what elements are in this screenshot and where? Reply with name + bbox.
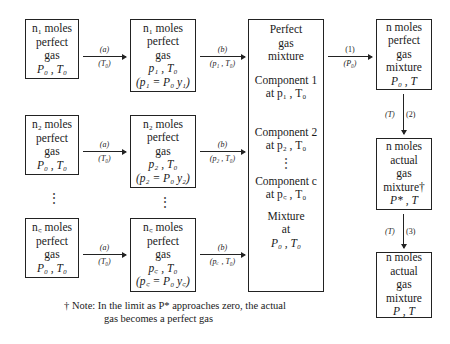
step-b-label-top: (b) bbox=[200, 140, 245, 149]
step-b-label-bottom: (p₂ , T₀) bbox=[200, 154, 245, 163]
label: at p꜀ , T₀ bbox=[266, 188, 306, 202]
label: n₁ moles bbox=[143, 22, 183, 36]
step-a-label-top: (a) bbox=[83, 45, 126, 54]
ellipsis-mixture: ⋮ bbox=[279, 153, 293, 175]
arrow-step-b-c bbox=[200, 254, 245, 255]
label: n moles bbox=[386, 140, 422, 154]
box-nc-initial: n꜀ moles perfect gas P₀ , T₀ bbox=[25, 218, 79, 278]
box-n1-initial: n₁ moles perfect gas P₀ , T₀ bbox=[25, 19, 79, 79]
label: Perfect bbox=[270, 23, 303, 37]
step-1-label-bottom: (P₀) bbox=[328, 59, 372, 68]
step-b-label-top: (b) bbox=[200, 45, 245, 54]
label: gas bbox=[44, 49, 59, 63]
box-actual-mixture-Pstar-T: n moles actual gas mixture† P* , T bbox=[376, 138, 432, 210]
label: at bbox=[282, 223, 290, 237]
label: P₀ , T₀ bbox=[37, 63, 67, 77]
step-b-label-bottom: (p꜀ , T₀) bbox=[200, 257, 245, 266]
label: (p₂ = P₀ y₂) bbox=[136, 172, 190, 186]
label: perfect bbox=[388, 34, 420, 48]
step-b-label-bottom: (p₁ , T₀) bbox=[200, 59, 245, 68]
step-2-label-right: (2) bbox=[406, 110, 415, 119]
box-n2-partial: n₂ moles perfect gas p₂ , T₀ (p₂ = P₀ y₂… bbox=[130, 115, 196, 188]
label: actual bbox=[390, 154, 417, 168]
label: (p꜀ = P₀ y꜀) bbox=[136, 275, 190, 289]
label: p₂ , T₀ bbox=[149, 158, 178, 172]
arrow-step-2 bbox=[403, 94, 404, 134]
label: P , T bbox=[393, 305, 415, 319]
ellipsis-left: ⋮ bbox=[47, 192, 57, 206]
footnote-line2: gas becomes a perfect gas bbox=[104, 313, 213, 325]
label: Component 2 bbox=[255, 126, 317, 140]
box-n2-initial: n₂ moles perfect gas P₀ , T₀ bbox=[25, 115, 79, 175]
box-nc-partial: n꜀ moles perfect gas p꜀ , T₀ (p꜀ = P₀ y꜀… bbox=[130, 218, 196, 292]
label: gas bbox=[155, 248, 170, 262]
label: at p₂ , T₀ bbox=[266, 139, 306, 153]
box-perfect-mixture-P0-T: n moles perfect gas mixture P₀ , T bbox=[376, 19, 432, 90]
label: Mixture bbox=[267, 210, 304, 224]
label: mixture† bbox=[383, 181, 425, 195]
label: n₂ moles bbox=[32, 118, 72, 132]
footnote-line1: † Note: In the limit as P* approaches ze… bbox=[64, 300, 286, 312]
step-2-label-left: (T) bbox=[385, 110, 395, 119]
step-b-label-top: (b) bbox=[200, 243, 245, 252]
label: perfect bbox=[36, 132, 68, 146]
label: gas bbox=[396, 48, 411, 62]
label: n₂ moles bbox=[143, 118, 183, 132]
label: Component c bbox=[255, 175, 317, 189]
label: gas bbox=[278, 37, 293, 51]
label: gas bbox=[155, 145, 170, 159]
label: P* , T bbox=[390, 194, 418, 208]
label: gas bbox=[44, 248, 59, 262]
label: P₀ , T bbox=[391, 75, 417, 89]
label: mixture bbox=[386, 61, 422, 75]
label: at p₁ , T₀ bbox=[266, 87, 306, 101]
box-actual-mixture-P-T: n moles actual gas mixture P , T bbox=[376, 252, 432, 318]
label: perfect bbox=[36, 235, 68, 249]
step-a-label-top: (a) bbox=[83, 140, 126, 149]
arrow-step-1 bbox=[328, 56, 372, 57]
label: p꜀ , T₀ bbox=[149, 262, 178, 276]
label: actual bbox=[390, 265, 417, 279]
label: gas bbox=[155, 49, 170, 63]
label: n꜀ moles bbox=[32, 221, 72, 235]
arrow-step-3 bbox=[403, 214, 404, 248]
label: n moles bbox=[386, 21, 422, 35]
label: perfect bbox=[147, 35, 179, 49]
label: n꜀ moles bbox=[143, 221, 183, 235]
label: (p₁ = P₀ y₁) bbox=[136, 76, 190, 90]
step-1-label-top: (1) bbox=[328, 45, 372, 54]
label: gas bbox=[396, 167, 411, 181]
label: gas bbox=[396, 278, 411, 292]
label: P₀ , T₀ bbox=[37, 262, 67, 276]
box-perfect-gas-mixture: Perfect gas mixture Component 1 at p₁ , … bbox=[248, 19, 324, 292]
label: n₁ moles bbox=[32, 22, 72, 36]
step-3-label-left: (T) bbox=[385, 227, 395, 236]
label: mixture bbox=[386, 292, 422, 306]
arrow-step-b-2 bbox=[200, 151, 245, 152]
label: perfect bbox=[147, 131, 179, 145]
label: Component 1 bbox=[255, 74, 317, 88]
label: perfect bbox=[147, 235, 179, 249]
arrow-step-b-1 bbox=[200, 56, 245, 57]
arrow-step-a-1 bbox=[83, 56, 126, 57]
step-a-label-bottom: (T₀) bbox=[83, 257, 126, 266]
label: gas bbox=[44, 145, 59, 159]
label: mixture bbox=[268, 50, 304, 64]
label: n moles bbox=[386, 251, 422, 265]
label: P₀ , T₀ bbox=[271, 237, 301, 251]
step-3-label-right: (3) bbox=[406, 227, 415, 236]
arrow-step-a-c bbox=[83, 254, 126, 255]
ellipsis-middle: ⋮ bbox=[158, 196, 168, 210]
label: perfect bbox=[36, 36, 68, 50]
label: P₀ , T₀ bbox=[37, 159, 67, 173]
step-a-label-bottom: (T₀) bbox=[83, 154, 126, 163]
box-n1-partial: n₁ moles perfect gas p₁ , T₀ (p₁ = P₀ y₁… bbox=[130, 19, 196, 92]
arrow-step-a-2 bbox=[83, 151, 126, 152]
label: p₁ , T₀ bbox=[149, 62, 178, 76]
step-a-label-top: (a) bbox=[83, 243, 126, 252]
step-a-label-bottom: (T₀) bbox=[83, 59, 126, 68]
